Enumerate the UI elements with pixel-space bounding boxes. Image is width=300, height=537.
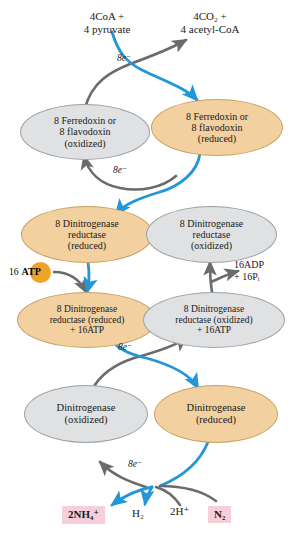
arrow-electrons-to-reductase — [116, 153, 200, 214]
arrow-protons-in — [156, 487, 180, 505]
node-dinitrogenase-reduced: Dinitrogenase (reduced) — [154, 385, 278, 443]
node-dinitrogenase-oxidized: Dinitrogenase (oxidized) — [24, 385, 148, 443]
reactant-dinitrogen: N₂ — [208, 506, 231, 523]
substrate-left-label: 4CoA + 4 pyruvate — [52, 10, 162, 35]
dinitrogenase-ox-line2: (oxidized) — [57, 414, 116, 426]
dnr-ox-atp-line2: reductase (oxidized) — [175, 315, 252, 326]
dnr-red-line3: (reduced) — [55, 240, 119, 251]
dinitrogenase-ox-line1: Dinitrogenase — [57, 402, 116, 414]
adp-line1: 16ADP — [234, 259, 298, 271]
substrate-left-line2: 4 pyruvate — [52, 23, 162, 36]
substrate-left-line1: 4CoA + — [52, 10, 162, 23]
arrow-electrons-to-substrate — [160, 442, 208, 486]
substrate-right-label: 4CO₂ + 4 acetyl-CoA — [150, 10, 270, 35]
node-dinitrogenase-reductase-reduced: 8 Dinitrogenase reductase (reduced) — [21, 206, 153, 263]
atp-input-label: 16 ATP — [9, 266, 41, 277]
electron-label-1: 8e⁻ — [117, 52, 131, 63]
substrate-right-line1: 4CO₂ + — [150, 10, 270, 23]
electron-label-3: 8e⁻ — [118, 341, 132, 352]
node-ferredoxin-reduced: 8 Ferredoxin or 8 flavodoxin (reduced) — [151, 99, 283, 156]
product-ammonium: 2NH₄⁺ — [62, 506, 105, 524]
dnr-red-atp-line3: + 16ATP — [50, 325, 125, 336]
substrate-right-line2: 4 acetyl-CoA — [150, 23, 270, 36]
arrow-ferredoxin-reoxidation — [84, 156, 176, 190]
nitrogenase-pathway-diagram: 4CoA + 4 pyruvate 4CO₂ + 4 acetyl-CoA 8e… — [0, 0, 300, 537]
ferredoxin-ox-line1: 8 Ferredoxin or — [54, 115, 116, 126]
arrow-reductase-red-to-atp-complex — [87, 262, 89, 292]
ferredoxin-ox-line3: (oxidized) — [54, 138, 116, 149]
product-hydrogen: H₂ — [132, 507, 144, 520]
dnr-ox-line1: 8 Dinitrogenase — [180, 218, 244, 229]
dnr-ox-atp-line1: 8 Dinitrogenase — [175, 304, 252, 315]
electron-label-2: 8e⁻ — [113, 164, 127, 175]
ferredoxin-red-line1: 8 Ferredoxin or — [186, 111, 248, 122]
electron-label-4: 8e⁻ — [128, 458, 142, 469]
dnr-red-line2: reductase — [55, 229, 119, 240]
node-dinitrogenase-reductase-oxidized: 8 Dinitrogenase reductase (oxidized) — [146, 206, 277, 263]
dnr-red-atp-line2: reductase (reduced) — [50, 315, 125, 326]
node-ferredoxin-oxidized: 8 Ferredoxin or 8 flavodoxin (oxidized) — [20, 104, 150, 160]
atp-label: ATP — [22, 266, 41, 277]
arrow-pyruvate-oxidation — [85, 40, 186, 108]
node-dinitrogenase-reductase-reduced-atp: 8 Dinitrogenase reductase (reduced) + 16… — [17, 292, 157, 348]
dnr-ox-line2: reductase — [180, 229, 244, 240]
ferredoxin-red-line2: 8 flavodoxin — [186, 122, 248, 133]
dinitrogenase-red-line1: Dinitrogenase — [187, 402, 246, 414]
dnr-red-line1: 8 Dinitrogenase — [55, 218, 119, 229]
dnr-ox-atp-line3: + 16ATP — [175, 325, 252, 336]
dinitrogenase-red-line2: (reduced) — [187, 414, 246, 426]
arrow-atp-binding — [54, 272, 86, 292]
dnr-red-atp-line1: 8 Dinitrogenase — [50, 304, 125, 315]
atp-count: 16 — [9, 267, 19, 277]
arrow-reductase-ox-regeneration — [210, 262, 212, 292]
ferredoxin-ox-line2: 8 flavodoxin — [54, 126, 116, 137]
dnr-ox-line3: (oxidized) — [180, 240, 244, 251]
ferredoxin-red-line3: (reduced) — [186, 133, 248, 144]
adp-line2: + 16Pᵢ — [234, 271, 298, 283]
node-dinitrogenase-reductase-oxidized-atp: 8 Dinitrogenase reductase (oxidized) + 1… — [143, 292, 285, 348]
adp-output-label: 16ADP + 16Pᵢ — [234, 259, 298, 282]
reactant-protons: 2H⁺ — [170, 505, 189, 518]
